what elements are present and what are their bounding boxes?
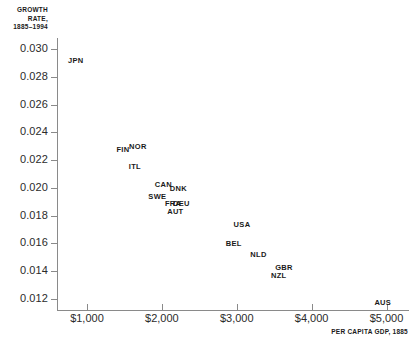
y-axis-title-line-2: RATE, xyxy=(13,15,48,24)
y-tick-mark xyxy=(51,77,57,78)
y-tick-label: 0.016 xyxy=(20,236,48,248)
x-tick-mark xyxy=(87,304,88,310)
x-tick-label: $1,000 xyxy=(70,312,104,324)
y-axis-title-line-3: 1885–1994 xyxy=(13,23,48,32)
y-tick-mark xyxy=(51,243,57,244)
y-tick-mark xyxy=(51,105,57,106)
x-tick-label: $5,000 xyxy=(370,312,404,324)
x-tick-mark xyxy=(312,304,313,310)
y-axis-title-line-1: GROWTH xyxy=(13,6,48,15)
y-tick-label: 0.020 xyxy=(20,181,48,193)
y-tick-mark xyxy=(51,216,57,217)
y-tick-mark xyxy=(51,132,57,133)
data-point-label-usa: USA xyxy=(234,219,251,228)
x-tick-label: $4,000 xyxy=(295,312,329,324)
y-tick-mark xyxy=(51,188,57,189)
data-point-label-nor: NOR xyxy=(129,142,147,151)
y-tick-mark xyxy=(51,49,57,50)
data-point-label-fin: FIN xyxy=(116,145,129,154)
x-axis-title: PER CAPITA GDP, 1885 xyxy=(331,328,408,335)
data-point-label-itl: ITL xyxy=(129,161,141,170)
data-point-label-aut: AUT xyxy=(167,207,183,216)
y-tick-label: 0.012 xyxy=(20,292,48,304)
y-tick-label: 0.018 xyxy=(20,209,48,221)
data-point-label-nzl: NZL xyxy=(271,271,286,280)
data-point-label-nld: NLD xyxy=(250,250,266,259)
data-point-label-aus: AUS xyxy=(374,297,391,306)
y-tick-label: 0.030 xyxy=(20,42,48,54)
y-tick-mark xyxy=(51,271,57,272)
data-point-label-bel: BEL xyxy=(226,239,242,248)
data-point-label-jpn: JPN xyxy=(68,56,84,65)
y-tick-mark xyxy=(51,299,57,300)
x-axis-line xyxy=(57,310,409,311)
y-tick-label: 0.022 xyxy=(20,153,48,165)
y-tick-label: 0.026 xyxy=(20,98,48,110)
y-tick-label: 0.024 xyxy=(20,125,48,137)
y-tick-mark xyxy=(51,160,57,161)
x-tick-mark xyxy=(237,304,238,310)
y-tick-label: 0.014 xyxy=(20,264,48,276)
chart-page: GROWTH RATE, 1885–1994 0.0120.0140.0160.… xyxy=(0,0,410,348)
y-axis-title: GROWTH RATE, 1885–1994 xyxy=(13,6,48,32)
x-tick-label: $2,000 xyxy=(145,312,179,324)
x-tick-label: $3,000 xyxy=(220,312,254,324)
y-tick-label: 0.028 xyxy=(20,70,48,82)
data-point-label-dnk: DNK xyxy=(170,183,187,192)
x-tick-mark xyxy=(162,304,163,310)
y-axis-line xyxy=(57,38,58,310)
data-point-label-swe: SWE xyxy=(148,192,166,201)
